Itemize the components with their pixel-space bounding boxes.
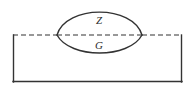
cross-section-diagram: Z G: [0, 0, 195, 92]
label-g: G: [95, 39, 103, 51]
figure-container: Z G: [0, 0, 195, 92]
label-z: Z: [96, 14, 103, 26]
